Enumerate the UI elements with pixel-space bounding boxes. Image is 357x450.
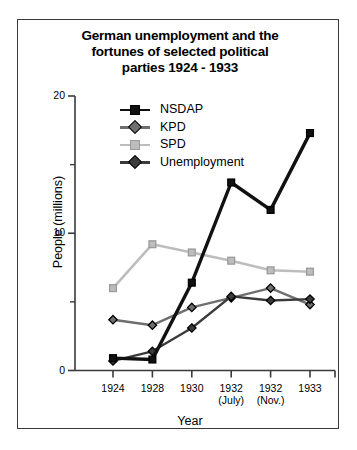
x-tick-label: 1933 bbox=[284, 382, 336, 394]
series-kpd bbox=[109, 284, 314, 330]
data-point bbox=[228, 179, 235, 186]
series-line bbox=[113, 133, 310, 359]
data-point bbox=[306, 295, 314, 303]
data-point bbox=[307, 130, 314, 137]
data-point bbox=[148, 321, 156, 329]
series-line bbox=[113, 288, 310, 325]
data-point bbox=[110, 285, 117, 292]
data-point bbox=[307, 268, 314, 275]
data-point bbox=[149, 356, 156, 363]
data-point bbox=[267, 267, 274, 274]
data-point bbox=[228, 257, 235, 264]
data-point bbox=[266, 284, 274, 292]
y-tick-label: 20 bbox=[41, 89, 65, 101]
data-point bbox=[110, 355, 117, 362]
x-tick-label-year: 1933 bbox=[284, 382, 336, 394]
data-point bbox=[188, 303, 196, 311]
y-tick-label: 0 bbox=[41, 364, 65, 376]
y-tick-label: 10 bbox=[41, 226, 65, 238]
data-point bbox=[188, 249, 195, 256]
data-point bbox=[149, 241, 156, 248]
series-nsdap bbox=[110, 130, 314, 363]
series-line bbox=[113, 296, 310, 361]
series-line bbox=[113, 244, 310, 288]
series-spd bbox=[110, 241, 314, 292]
data-point bbox=[188, 279, 195, 286]
data-point bbox=[109, 316, 117, 324]
data-point bbox=[267, 207, 274, 214]
data-point bbox=[266, 296, 274, 304]
x-tick-label-sub: (Nov.) bbox=[245, 394, 297, 406]
